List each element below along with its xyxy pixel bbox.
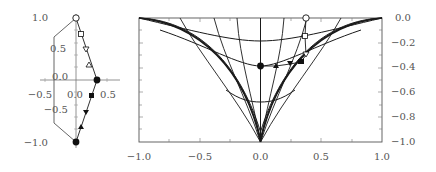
left-x-label-neg0.5: −0.5 — [28, 89, 52, 100]
marker-filled-circle — [257, 63, 264, 70]
right-plot: −1.0 −0.5 0.0 0.5 1.0 0.0 −0.2 −0.4 −0.6… — [127, 12, 415, 162]
right-y-label-0.0: 0.0 — [395, 12, 411, 23]
marker-filled-circle-bottom — [73, 139, 80, 146]
marker-filled-triangle-up — [78, 124, 84, 129]
right-y-label-neg0.4: −0.4 — [391, 61, 415, 72]
right-y-label-neg0.6: −0.6 — [391, 86, 415, 97]
right-x-label-neg0.5: −0.5 — [188, 151, 212, 162]
right-y-label-neg0.2: −0.2 — [391, 37, 415, 48]
right-x-label-0.5: 0.5 — [313, 151, 329, 162]
figure: 1.0 0.5 0.0 −0.5 −1.0 −0.5 0.0 0.5 — [0, 0, 436, 172]
marker-open-square — [79, 32, 84, 37]
left-y-label-1.0: 1.0 — [32, 12, 48, 23]
right-y-label-neg0.8: −0.8 — [391, 111, 415, 122]
left-y-label-neg1.0: −1.0 — [24, 137, 48, 148]
marker-open-square — [303, 34, 308, 39]
right-y-label-neg1.0: −1.0 — [391, 136, 415, 147]
marker-filled-square — [89, 93, 94, 98]
left-y-label-neg0.5: −0.5 — [44, 104, 68, 115]
marker-filled-square — [298, 59, 304, 64]
marker-open-triangle-down — [83, 47, 89, 52]
left-y-label-0.0: 0.0 — [52, 71, 68, 82]
left-plot: 1.0 0.5 0.0 −0.5 −1.0 −0.5 0.0 0.5 — [24, 12, 120, 148]
marker-open-circle — [73, 15, 79, 21]
marker-filled-triangle-down — [83, 110, 89, 115]
marker-filled-circle — [94, 77, 101, 84]
left-y-label-0.5: 0.5 — [50, 43, 66, 54]
left-x-label-0.5: 0.5 — [100, 89, 116, 100]
right-x-label-1.0: 1.0 — [374, 151, 390, 162]
right-x-label-0.0: 0.0 — [253, 151, 269, 162]
left-x-label-0.0: 0.0 — [67, 89, 83, 100]
marker-open-circle — [303, 15, 309, 21]
right-x-label-neg1.0: −1.0 — [127, 151, 151, 162]
